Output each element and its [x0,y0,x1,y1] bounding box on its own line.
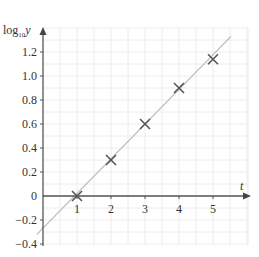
x-tick-label: 5 [210,202,216,216]
best-fit-line [37,36,231,234]
x-tick-label: 3 [142,202,148,216]
y-tick-label: 1.2 [22,45,37,59]
y-tick-label: 0.2 [22,165,37,179]
x-tick-label: 4 [176,202,182,216]
y-tick-label: −0.2 [15,213,37,227]
y-tick-label: 0.6 [22,117,37,131]
y-tick-label: 0 [31,189,37,203]
chart: 12345 −0.4−0.200.20.40.60.81.01.2 t log1… [0,0,259,257]
x-axis-label: t [240,179,244,193]
x-tick-label: 2 [108,202,114,216]
y-ticks: −0.4−0.200.20.40.60.81.01.2 [15,45,43,251]
y-tick-label: −0.4 [15,237,37,251]
x-tick-label: 1 [74,202,80,216]
y-axis-label-log: log [3,23,18,37]
y-tick-label: 0.4 [22,141,37,155]
y-axis-label-var: y [24,23,31,37]
y-axis-label: log10y [3,23,31,39]
x-ticks: 12345 [74,196,216,216]
best-fit-line-segment [37,36,231,234]
y-tick-label: 0.8 [22,93,37,107]
y-tick-label: 1.0 [22,69,37,83]
